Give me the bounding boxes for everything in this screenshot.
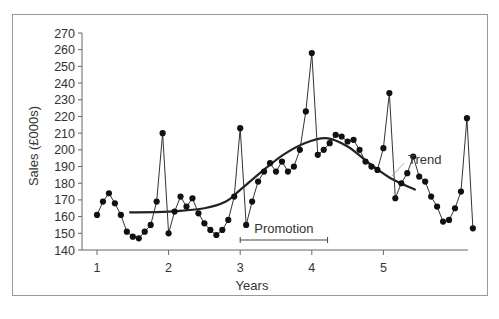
sales-line-chart: 1401501601701801902002102202302402502602…	[0, 0, 499, 319]
data-point	[297, 147, 303, 153]
y-tick-label: 250	[54, 60, 75, 74]
data-point	[285, 168, 291, 174]
data-point	[374, 167, 380, 173]
x-tick-label: 4	[308, 261, 315, 275]
data-point	[279, 158, 285, 164]
data-point	[368, 163, 374, 169]
data-point	[392, 195, 398, 201]
data-point	[446, 217, 452, 223]
x-tick-label: 1	[94, 261, 101, 275]
y-tick-label: 240	[54, 77, 75, 91]
data-point	[416, 173, 422, 179]
y-axis: 1401501601701801902002102202302402502602…	[54, 27, 82, 258]
data-point	[112, 200, 118, 206]
data-point	[350, 137, 356, 143]
data-point	[309, 50, 315, 56]
data-point	[94, 212, 100, 218]
y-tick-label: 220	[54, 110, 75, 124]
data-point	[106, 190, 112, 196]
data-point	[428, 193, 434, 199]
data-point	[249, 198, 255, 204]
data-point	[362, 158, 368, 164]
data-point	[171, 209, 177, 215]
data-point	[327, 140, 333, 146]
y-tick-label: 210	[54, 127, 75, 141]
data-point	[142, 229, 148, 235]
data-point	[339, 133, 345, 139]
data-point	[464, 115, 470, 121]
data-point	[219, 227, 225, 233]
data-point	[160, 130, 166, 136]
data-point	[124, 229, 130, 235]
y-tick-label: 270	[54, 27, 75, 41]
data-point	[440, 219, 446, 225]
data-point	[386, 90, 392, 96]
y-tick-label: 140	[54, 244, 75, 258]
data-point	[422, 178, 428, 184]
data-point	[213, 232, 219, 238]
data-point	[345, 138, 351, 144]
data-point	[201, 220, 207, 226]
data-point	[237, 125, 243, 131]
data-point	[303, 108, 309, 114]
data-point	[207, 227, 213, 233]
trend-line	[129, 138, 415, 212]
data-point	[154, 198, 160, 204]
sales-line	[97, 53, 473, 238]
data-point	[404, 170, 410, 176]
data-point	[148, 222, 154, 228]
data-point	[380, 145, 386, 151]
y-tick-label: 190	[54, 160, 75, 174]
promotion-label: Promotion	[254, 221, 313, 236]
data-point	[166, 230, 172, 236]
y-tick-label: 260	[54, 43, 75, 57]
y-tick-label: 150	[54, 227, 75, 241]
data-point	[255, 178, 261, 184]
data-point	[267, 160, 273, 166]
data-point	[195, 210, 201, 216]
data-point	[261, 168, 267, 174]
y-tick-label: 160	[54, 210, 75, 224]
data-point	[231, 193, 237, 199]
data-point	[225, 217, 231, 223]
data-point	[458, 188, 464, 194]
data-point	[333, 132, 339, 138]
x-tick-label: 2	[165, 261, 172, 275]
data-point	[315, 152, 321, 158]
data-point	[321, 147, 327, 153]
data-point	[434, 204, 440, 210]
y-tick-label: 230	[54, 93, 75, 107]
trend-label: Trend	[408, 152, 441, 167]
y-axis-title: Sales (£000s)	[26, 106, 41, 186]
data-point	[118, 212, 124, 218]
data-point	[398, 180, 404, 186]
data-point	[136, 235, 142, 241]
data-point	[273, 168, 279, 174]
data-point	[291, 163, 297, 169]
x-tick-label: 5	[380, 261, 387, 275]
y-tick-label: 170	[54, 193, 75, 207]
data-point	[100, 198, 106, 204]
data-point	[452, 205, 458, 211]
data-point	[189, 195, 195, 201]
data-point	[356, 147, 362, 153]
y-tick-label: 180	[54, 177, 75, 191]
x-axis: 12345	[82, 250, 468, 275]
data-point	[177, 193, 183, 199]
data-point	[243, 222, 249, 228]
x-axis-title: Years	[236, 278, 269, 293]
trend-curve	[129, 138, 415, 212]
data-point	[470, 225, 476, 231]
data-point	[130, 234, 136, 240]
y-tick-label: 200	[54, 143, 75, 157]
x-tick-label: 3	[237, 261, 244, 275]
data-point	[183, 204, 189, 210]
